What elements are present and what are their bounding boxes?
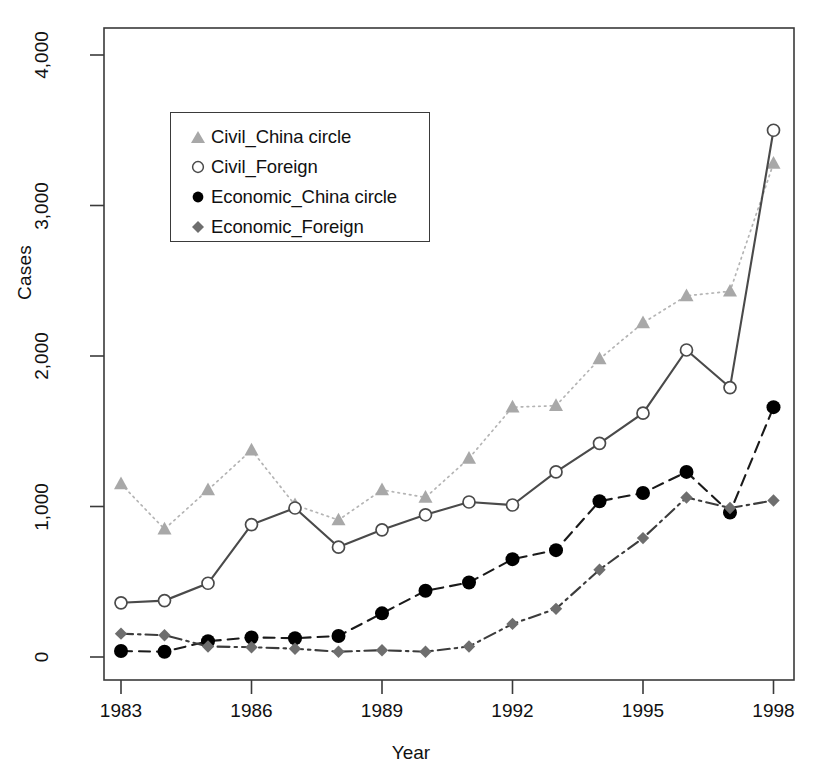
data-point <box>158 645 172 659</box>
data-point <box>244 443 258 456</box>
data-point <box>463 496 475 508</box>
x-axis-title: Year <box>0 742 822 764</box>
data-point <box>767 400 781 414</box>
data-point <box>723 284 737 297</box>
data-point <box>289 502 301 514</box>
data-point <box>463 640 475 652</box>
data-point <box>768 124 780 136</box>
data-point <box>419 584 433 598</box>
data-point <box>202 577 214 589</box>
filled-circle-marker-icon <box>185 189 211 205</box>
y-tick-label: 4,000 <box>31 13 53 97</box>
data-point <box>158 629 170 641</box>
data-point <box>636 315 650 328</box>
data-point <box>332 646 344 658</box>
data-point <box>506 618 518 630</box>
y-tick-label: 3,000 <box>31 164 53 248</box>
data-point <box>114 644 128 658</box>
data-point <box>593 494 607 508</box>
legend-label: Civil_Foreign <box>211 156 318 178</box>
x-tick-label: 1992 <box>473 700 553 722</box>
data-point <box>507 499 519 511</box>
data-point <box>636 486 650 500</box>
x-tick-label: 1989 <box>342 700 422 722</box>
data-point <box>333 541 345 553</box>
data-point <box>375 606 389 620</box>
data-point <box>594 437 606 449</box>
open-circle-marker-icon <box>185 159 211 175</box>
series-line <box>121 407 774 652</box>
data-point <box>289 643 301 655</box>
data-point <box>505 400 519 413</box>
data-point <box>680 491 692 503</box>
x-tick-label: 1998 <box>734 700 814 722</box>
data-point <box>681 344 693 356</box>
data-point <box>159 595 171 607</box>
y-tick-label: 2,000 <box>31 314 53 398</box>
data-point <box>114 477 128 490</box>
series-economic-china-circle <box>114 400 781 659</box>
data-point <box>592 352 606 365</box>
data-point <box>506 552 520 566</box>
data-point <box>332 629 346 643</box>
data-point <box>375 483 389 496</box>
legend-item-economic-foreign: Economic_Foreign <box>171 212 429 242</box>
data-point <box>376 644 388 656</box>
x-tick-label: 1995 <box>603 700 683 722</box>
chart-figure: 01,0002,0003,0004,000 198319861989199219… <box>0 0 822 782</box>
data-point <box>115 597 127 609</box>
data-point <box>419 646 431 658</box>
y-tick-label: 0 <box>31 615 53 699</box>
legend-item-civil-foreign: Civil_Foreign <box>171 152 429 182</box>
data-point <box>549 543 563 557</box>
x-tick-label: 1986 <box>212 700 292 722</box>
y-tick-label: 1,000 <box>31 465 53 549</box>
data-point <box>462 576 476 590</box>
y-axis-title: Cases <box>14 245 36 300</box>
data-point <box>724 382 736 394</box>
y-axis-ticks <box>90 55 104 657</box>
chart-legend: Civil_China circle Civil_Foreign Economi… <box>170 112 430 242</box>
data-point <box>550 466 562 478</box>
data-point <box>420 509 432 521</box>
legend-label: Civil_China circle <box>211 126 351 148</box>
legend-item-civil-china: Civil_China circle <box>171 122 429 152</box>
data-point <box>637 407 649 419</box>
data-point <box>680 465 694 479</box>
data-point <box>115 627 127 639</box>
data-point <box>767 494 779 506</box>
legend-label: Economic_Foreign <box>211 216 364 238</box>
legend-item-economic-china: Economic_China circle <box>171 182 429 212</box>
series-line <box>121 498 774 652</box>
data-point <box>246 519 258 531</box>
data-point <box>376 524 388 536</box>
legend-label: Economic_China circle <box>211 186 397 208</box>
triangle-marker-icon <box>185 130 211 144</box>
diamond-marker-icon <box>185 219 211 235</box>
x-tick-label: 1983 <box>81 700 161 722</box>
x-axis-ticks <box>121 680 774 694</box>
data-point <box>679 288 693 301</box>
